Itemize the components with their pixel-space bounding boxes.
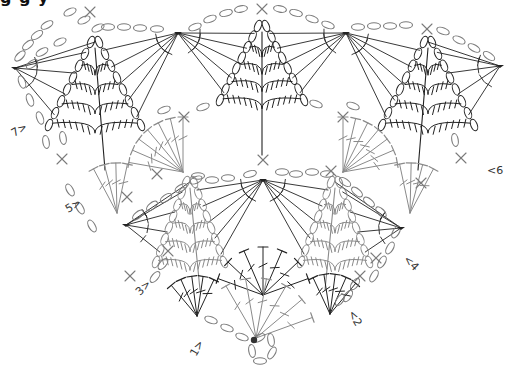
chain-stitch-icon: [131, 208, 145, 221]
row-label-6: <6: [487, 164, 503, 177]
pineapple-tick: [267, 102, 269, 110]
pineapple-tick: [194, 264, 196, 272]
pineapple-tick: [399, 100, 401, 108]
chain-stitch-icon: [13, 49, 27, 63]
pineapple-chain-icon: [395, 83, 405, 97]
pineapple-tick: [203, 219, 205, 227]
pineapple-tick: [75, 81, 77, 89]
pineapple-tick: [458, 120, 460, 128]
pineapple-chain-icon: [94, 35, 104, 49]
pineapple-chain-icon: [383, 106, 393, 120]
pineapple-tick: [271, 43, 273, 51]
pineapple-tick: [316, 258, 318, 266]
chain-stitch-icon: [219, 8, 233, 18]
pineapple-tick: [311, 257, 313, 265]
chain-stitch-icon: [35, 111, 45, 125]
pineapple-tick: [251, 82, 253, 90]
pineapple-tick: [66, 100, 68, 108]
single-crochet-x-icon: [57, 154, 67, 164]
pineapple-tick: [181, 242, 183, 250]
fan-row6-left: [128, 117, 188, 172]
chain-stitch-icon: [64, 183, 76, 197]
pineapple-chain-icon: [118, 83, 128, 97]
pineapple-tick: [271, 82, 273, 90]
chain-stitch-icon: [374, 205, 388, 219]
pineapple-tick: [317, 238, 319, 246]
pineapple-tick: [326, 242, 328, 250]
pineapple-tick: [122, 100, 124, 108]
hub-spoke: [215, 180, 263, 238]
single-crochet-x-icon: [257, 4, 267, 14]
pineapple-tick: [416, 104, 418, 112]
pineapple-tick: [452, 121, 454, 129]
pine-mid-left: [151, 175, 229, 290]
chain-stitch-icon: [196, 102, 210, 112]
pineapple-tick: [116, 101, 118, 109]
pineapple-tick: [182, 222, 184, 230]
chain-stitch-icon: [309, 99, 323, 109]
pineapple-tick: [289, 95, 291, 103]
pineapple-tick: [357, 257, 359, 265]
chain-stitch-icon: [118, 24, 131, 30]
pineapple-tick: [193, 244, 195, 252]
pineapple-chain-icon: [86, 35, 96, 49]
fan-row2-left: [167, 276, 218, 316]
row-label-4: <4: [401, 253, 422, 274]
dc-stitch-icon: [111, 163, 121, 213]
pineapple-chain-icon: [338, 187, 348, 201]
hub-spoke: [137, 33, 178, 117]
pineapple-chain-icon: [197, 198, 207, 212]
pineapple-chain-icon: [407, 59, 417, 73]
dc-stitch-icon: [343, 117, 361, 172]
pineapple-tick: [327, 222, 329, 230]
chain-stitch-icon: [346, 101, 360, 111]
pineapple-chain-icon: [469, 118, 479, 132]
hub-spoke: [126, 225, 160, 252]
pineapple-chain-icon: [321, 187, 331, 201]
pineapple-tick: [274, 62, 276, 70]
pineapple-tick: [203, 259, 205, 267]
pineapple-tick: [104, 62, 106, 70]
pineapple-tick: [417, 62, 419, 70]
pineapple-tick: [175, 259, 177, 267]
pineapple-tick: [112, 122, 114, 130]
pineapple-row-left: [71, 84, 95, 95]
row-label-7: 7>: [9, 120, 30, 139]
dc-stitch-icon: [176, 277, 197, 316]
pineapple-tick: [252, 64, 254, 72]
pineapple-chain-icon: [439, 59, 449, 73]
chain-stitch-icon: [248, 344, 257, 358]
chain-stitch-icon: [151, 26, 164, 32]
fan-row3-center: [216, 247, 310, 295]
fan-row5-left: [89, 163, 132, 213]
pineapple-tick: [233, 95, 235, 103]
chain-stitch-icon: [362, 195, 376, 208]
pineapple-tick: [341, 222, 343, 230]
chain-stitch-icon: [452, 34, 466, 45]
single-crochet-x-icon: [125, 271, 135, 281]
single-crochet-x-icon: [371, 253, 381, 263]
pineapple-chain-icon: [300, 244, 310, 258]
pine-top-left: [44, 35, 146, 170]
pineapple-tick: [323, 220, 325, 228]
pineapple-tick: [206, 238, 208, 246]
pineapple-chain-icon: [202, 210, 212, 224]
pineapple-tick: [281, 78, 283, 86]
pineapple-tick: [272, 100, 274, 108]
chain-stitch-icon: [222, 175, 235, 181]
pineapple-tick: [351, 238, 353, 246]
chain-stitch-icon: [290, 171, 303, 177]
pineapple-chain-icon: [214, 244, 224, 258]
pineapple-chain-icon: [463, 106, 473, 120]
dc-stitch-icon: [117, 163, 132, 213]
pineapple-tick: [250, 100, 252, 108]
chain-stitch-icon: [390, 225, 402, 239]
chain-stitch-icon: [25, 93, 35, 107]
pineapple-tick: [256, 84, 258, 92]
dc-stitch-icon: [395, 163, 410, 213]
pine-top-right: [377, 35, 479, 170]
chain-stitch-icon: [204, 315, 218, 325]
pineapple-chain-icon: [313, 210, 323, 224]
dc-stitch-icon: [410, 167, 438, 213]
chain-stitch-icon: [206, 177, 219, 183]
